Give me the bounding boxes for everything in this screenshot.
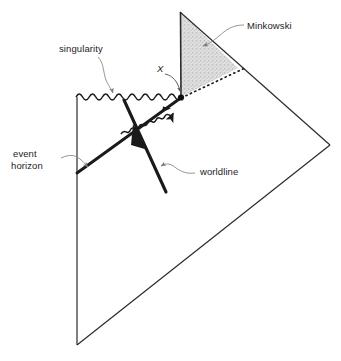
minkowski-leader [203, 25, 244, 46]
penrose-diagram-figure: Minkowski singularity event horizon worl… [0, 0, 341, 361]
singularity-wavy-line [76, 94, 182, 100]
singularity-leader [98, 57, 113, 93]
label-point-x: X [157, 63, 163, 75]
event-horizon-leader [61, 155, 88, 167]
label-event-horizon-line2: horizon [11, 160, 43, 172]
point-x-dot [178, 94, 184, 100]
diagram-canvas [0, 0, 341, 361]
label-minkowski: Minkowski [247, 20, 292, 32]
hawking-radiation-wave [121, 113, 173, 134]
minkowski-left-edge [181, 12, 182, 97]
x-leader [165, 74, 181, 92]
label-worldline: worldline [200, 166, 238, 178]
label-event-horizon-line1: event [13, 148, 37, 160]
worldline-leader [161, 164, 195, 173]
label-singularity: singularity [59, 43, 103, 55]
